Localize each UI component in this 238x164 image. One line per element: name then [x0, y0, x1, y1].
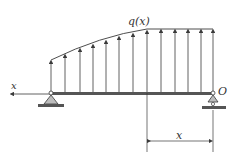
origin-label: O: [218, 86, 227, 97]
load-label: q(x): [128, 16, 150, 27]
dimension-label: x: [176, 130, 182, 141]
beam: [51, 92, 213, 95]
beam-diagram: [0, 0, 238, 164]
load-curve: [51, 29, 213, 60]
load-arrows: [51, 31, 213, 93]
axis-label: x: [11, 81, 17, 91]
